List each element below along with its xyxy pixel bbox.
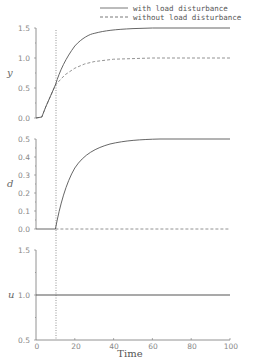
x-tick-label: 100 xyxy=(224,342,239,351)
panel-y: 1.5 1.0 0.5 0.0 y xyxy=(6,24,230,123)
tick-label: 1.0 xyxy=(18,54,30,63)
legend-dashed-label: without load disturbance xyxy=(133,13,242,22)
tick-label: 0.5 xyxy=(18,336,30,345)
series-with-disturbance xyxy=(36,139,230,229)
tick-label: 0.5 xyxy=(18,135,30,144)
chart-figure: with load disturbance without load distu… xyxy=(0,0,260,362)
panel-u: 1.5 1.0 0.5 u 0 20 40 60 80 100 Time xyxy=(8,246,238,360)
tick-label: 0.0 xyxy=(18,225,30,234)
tick-label: 0.2 xyxy=(18,189,30,198)
legend-solid-label: with load disturbance xyxy=(133,4,228,13)
x-tick-label: 80 xyxy=(187,342,197,351)
tick-label: 0.1 xyxy=(18,207,30,216)
y-axis-label-y: y xyxy=(6,67,13,78)
tick-label: 0.3 xyxy=(18,171,30,180)
tick-label: 0.4 xyxy=(18,153,30,162)
x-tick-label: 0 xyxy=(35,342,40,351)
tick-label: 1.5 xyxy=(18,24,30,33)
y-axis-label-d: d xyxy=(7,178,13,189)
tick-label: 1.0 xyxy=(18,291,30,300)
tick-label: 0.5 xyxy=(18,84,30,93)
x-axis-label: Time xyxy=(117,348,142,359)
x-tick-label: 20 xyxy=(71,342,81,351)
tick-label: 0.0 xyxy=(18,114,30,123)
series-with-disturbance xyxy=(36,28,230,118)
tick-label: 1.5 xyxy=(18,246,30,255)
series-without-disturbance xyxy=(36,58,230,118)
x-tick-label: 60 xyxy=(148,342,158,351)
panel-d: 0.5 0.4 0.3 0.2 0.1 0.0 d xyxy=(7,135,230,234)
y-axis-label-u: u xyxy=(8,289,14,300)
legend: with load disturbance without load distu… xyxy=(100,4,242,22)
